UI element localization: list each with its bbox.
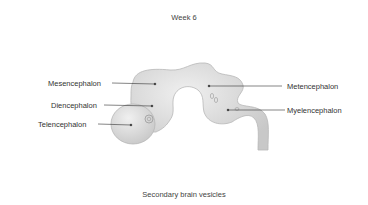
label-metencephalon: Metencephalon bbox=[287, 82, 338, 91]
figure-caption: Secondary brain vesicles bbox=[0, 190, 368, 199]
label-telencephalon: Telencephalon bbox=[38, 120, 86, 129]
label-diencephalon: Diencephalon bbox=[51, 101, 97, 110]
label-mesencephalon: Mesencephalon bbox=[48, 79, 101, 88]
label-myelencephalon: Myelencephalon bbox=[287, 106, 342, 115]
telencephalon-shape bbox=[111, 104, 155, 144]
